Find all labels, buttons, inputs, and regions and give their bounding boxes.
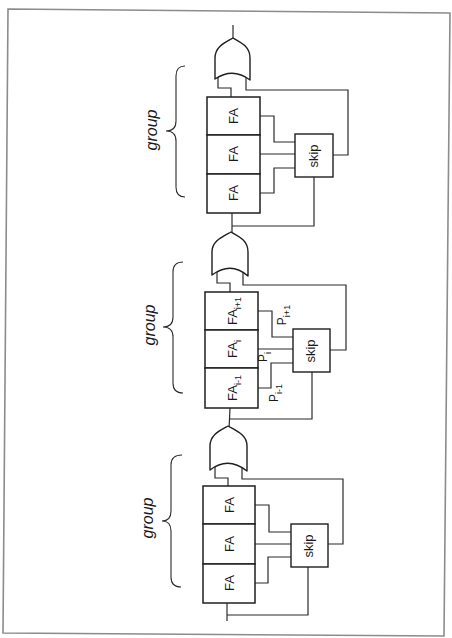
gate-left-input-wire (217, 271, 230, 292)
full-adder-label-base: FA (226, 185, 241, 201)
group-label-base: group (141, 304, 158, 345)
propagate-wire-bottom (260, 168, 295, 193)
skip-label-base: skip (306, 144, 321, 167)
or-gate (215, 38, 250, 80)
gate-left-input-wire (218, 76, 231, 97)
or-gate (210, 426, 247, 471)
full-adder-label-base: FA (226, 108, 241, 124)
or-gate (212, 232, 248, 276)
group-label: group (143, 109, 160, 150)
group-brace (166, 66, 185, 197)
group-label-base: group (143, 109, 160, 150)
propagate-signal-label-subscript: i (263, 352, 273, 354)
full-adder-label: FA (222, 497, 237, 513)
propagate-signal-label: Pi+1 (275, 305, 292, 325)
full-adder-label: FA (222, 575, 237, 591)
propagate-signal-label-subscript: i+1 (282, 305, 292, 317)
group-label: group (141, 304, 158, 345)
full-adder-label: FA (222, 536, 237, 552)
full-adder-label-subscript: i (233, 340, 243, 342)
skip-label-base: skip (303, 339, 318, 362)
propagate-signal-label-base: P (275, 317, 289, 325)
full-adder-label-base: FA (226, 146, 241, 162)
gate-left-input-wire (215, 465, 228, 486)
propagate-wire-top (260, 116, 295, 142)
full-adder-label-base: FA (225, 342, 240, 358)
full-adder-label-base: FA (225, 385, 240, 401)
propagate-wire-bottom (255, 557, 291, 583)
full-adder-label: FA (226, 146, 241, 162)
propagate-signal-label: Pi-1 (267, 384, 284, 402)
adder-group-2: groupFAi+1FAiFAi-1skipPi+1PiPi-1 (141, 232, 347, 430)
skip-label: skip (303, 339, 318, 362)
adder-group-1: groupFAFAFAskip (143, 25, 349, 236)
full-adder-label: FA (226, 108, 241, 124)
skip-label-base: skip (301, 534, 316, 557)
propagate-wire-top (255, 505, 291, 532)
skip-label: skip (301, 534, 316, 557)
carry-skip-diagram: groupFAFAFAskipgroupFAi+1FAiFAi-1skipPi+… (0, 0, 452, 638)
group-label: group (139, 497, 156, 538)
full-adder-label-base: FA (225, 309, 240, 325)
group-brace (163, 262, 183, 393)
group-label-base: group (139, 497, 156, 538)
group-brace (162, 455, 182, 587)
full-adder-label-subscript: i-1 (233, 375, 243, 385)
full-adder-label-base: FA (222, 536, 237, 552)
adder-group-3: groupFAFAFAskip (139, 426, 344, 621)
full-adder-label: FA (226, 185, 241, 201)
full-adder-label-base: FA (222, 497, 237, 513)
propagate-signal-label-base: P (267, 394, 281, 402)
propagate-signal-label-base: P (256, 354, 270, 362)
full-adder-label-subscript: i+1 (233, 297, 243, 309)
full-adder-label-base: FA (222, 575, 237, 591)
propagate-signal-label-subscript: i-1 (274, 384, 284, 394)
skip-label: skip (306, 144, 321, 167)
